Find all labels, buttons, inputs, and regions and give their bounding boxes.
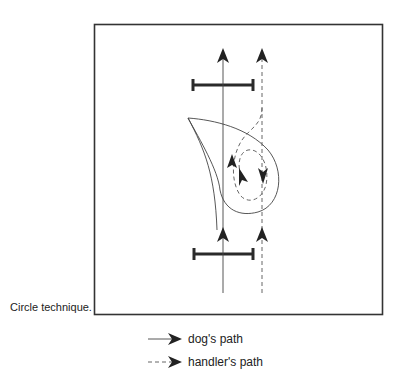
figure-caption: Circle technique.: [10, 301, 92, 313]
circle-technique-diagram: [0, 0, 402, 388]
jump-bar-bottom: [194, 248, 253, 260]
arrowhead-icon: [256, 227, 268, 242]
arrowhead-icon: [239, 168, 248, 186]
legend-dog-label: dog's path: [188, 332, 243, 346]
dog-path-tail: [188, 118, 217, 230]
legend-handler-label: handler's path: [188, 355, 263, 369]
diagram-frame: [95, 25, 383, 315]
